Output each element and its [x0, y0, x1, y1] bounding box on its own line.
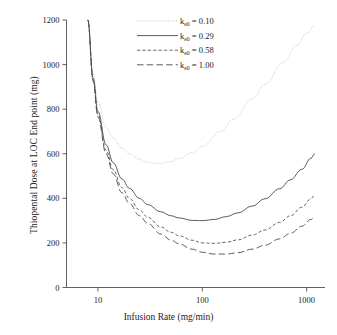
- legend-label-2: ke0 = 0.58: [180, 45, 214, 56]
- y-tick-label: 1000: [43, 60, 60, 70]
- y-tick-label: 400: [47, 193, 60, 203]
- legend-label-3: ke0 = 1.00: [180, 60, 214, 71]
- curve-series-0: [88, 20, 315, 164]
- y-tick-label: 200: [47, 238, 60, 248]
- y-axis-tick-labels: 020040060080010001200: [43, 15, 60, 293]
- legend: ke0 = 0.10ke0 = 0.29ke0 = 0.58ke0 = 1.00: [137, 16, 214, 71]
- x-axis-label: Infusion Rate (mg/min): [0, 312, 337, 322]
- x-tick-label: 100: [196, 295, 209, 305]
- legend-label-1: ke0 = 0.29: [180, 31, 214, 42]
- legend-label-0: ke0 = 0.10: [180, 16, 214, 27]
- y-axis-label: Thiopental Dose at LOC End point (mg): [29, 25, 39, 285]
- x-tick-label: 1000: [298, 295, 315, 305]
- y-tick-label: 600: [47, 149, 60, 159]
- x-axis-ticks: [98, 288, 307, 292]
- y-tick-label: 800: [47, 104, 60, 114]
- x-tick-label: 10: [94, 295, 103, 305]
- y-axis-ticks: [63, 20, 67, 288]
- y-tick-label: 1200: [43, 15, 60, 25]
- chart-canvas: 020040060080010001200 101001000 ke0 = 0.…: [0, 0, 337, 335]
- figure-container: 020040060080010001200 101001000 ke0 = 0.…: [0, 0, 337, 335]
- x-axis-tick-labels: 101001000: [94, 295, 315, 305]
- y-tick-label: 0: [55, 283, 59, 293]
